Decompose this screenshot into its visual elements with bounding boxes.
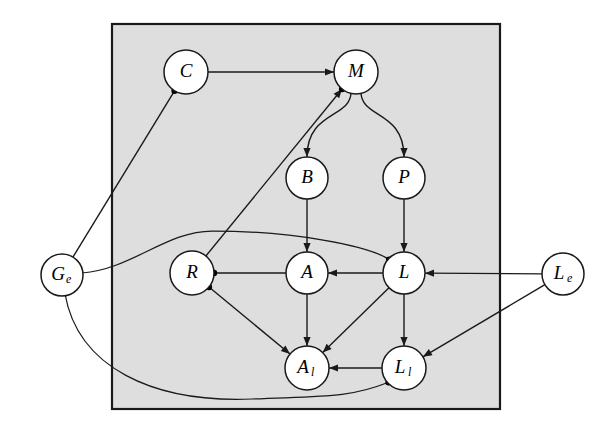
node-c[interactable]: C <box>164 50 208 94</box>
edge-le-to-l <box>425 273 542 274</box>
node-b-label: B <box>301 166 313 187</box>
node-ge[interactable]: Ge <box>41 254 83 296</box>
node-m-label: M <box>347 60 365 81</box>
node-l[interactable]: L <box>383 252 425 294</box>
node-a-label: A <box>299 261 313 282</box>
node-l-label: L <box>398 261 410 282</box>
node-p-label: P <box>397 166 410 187</box>
node-ge-label: G <box>51 263 65 284</box>
diagram-canvas: CMBPRALAlLlGeLe <box>0 0 612 433</box>
node-r-label: R <box>185 261 198 282</box>
node-al-label: A <box>295 356 309 377</box>
node-le[interactable]: Le <box>542 253 584 295</box>
node-b[interactable]: B <box>286 157 328 199</box>
node-c-label: C <box>180 60 193 81</box>
node-le-label: L <box>553 262 565 283</box>
node-le-subscript: e <box>567 271 573 285</box>
node-m[interactable]: M <box>334 50 378 94</box>
node-al[interactable]: Al <box>285 346 329 390</box>
node-r[interactable]: R <box>170 251 214 295</box>
node-ll[interactable]: Ll <box>382 346 426 390</box>
node-a[interactable]: A <box>286 252 328 294</box>
node-ge-subscript: e <box>66 272 72 286</box>
node-ll-label: L <box>394 356 406 377</box>
graph-svg: CMBPRALAlLlGeLe <box>0 0 612 433</box>
node-p[interactable]: P <box>383 157 425 199</box>
